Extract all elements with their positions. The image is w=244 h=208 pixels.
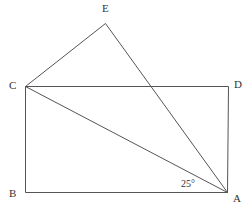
geometry-figure: A B C D E 25°: [0, 0, 244, 208]
segment-ca: [26, 87, 228, 193]
label-b: B: [9, 187, 16, 199]
label-d: D: [234, 78, 242, 90]
segments: [26, 24, 229, 193]
angle-label-bac: 25°: [181, 178, 195, 189]
label-e: E: [102, 2, 109, 14]
label-c: C: [9, 79, 16, 91]
segment-ea: [106, 24, 228, 193]
vertex-labels: A B C D E: [9, 2, 242, 204]
segment-da: [228, 87, 229, 193]
label-a: A: [233, 192, 241, 204]
segment-ce: [26, 24, 106, 87]
